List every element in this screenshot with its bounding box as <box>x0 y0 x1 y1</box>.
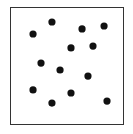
dot <box>89 42 96 49</box>
dot <box>48 99 55 106</box>
dot <box>37 59 44 66</box>
dot <box>56 66 63 73</box>
dot <box>84 72 91 79</box>
dot <box>48 18 55 25</box>
dot <box>100 22 107 29</box>
dot <box>29 30 36 37</box>
dot <box>103 97 110 104</box>
dot <box>67 44 74 51</box>
dot-pattern <box>0 0 133 134</box>
dot <box>29 86 36 93</box>
dot <box>67 89 74 96</box>
dot <box>78 25 85 32</box>
